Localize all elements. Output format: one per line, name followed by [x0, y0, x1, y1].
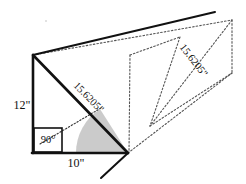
label-right-angle: 90° — [41, 134, 56, 145]
label-horizontal-leg: 10" — [68, 156, 85, 170]
dotted-back-lower-edge — [150, 73, 232, 126]
label-hypotenuse-front: 15.6205" — [71, 80, 106, 115]
dotted-back-face-connector — [150, 37, 180, 126]
label-vertical-leg: 12" — [14, 98, 31, 112]
label-hypotenuse-back: 15.6205" — [178, 42, 210, 79]
dotted-top-ridge — [33, 20, 232, 55]
dotted-long-edge-lower — [128, 73, 232, 153]
geometry-diagram: 12" 10" 90° 15.6205" 15.6205" — [0, 0, 246, 184]
bottom-extension-line — [101, 153, 128, 178]
geometry-canvas: 12" 10" 90° 15.6205" 15.6205" — [0, 0, 246, 184]
scan-speck — [45, 20, 46, 21]
dotted-back-hypotenuse — [150, 20, 232, 126]
dotted-interior-vertical — [129, 55, 130, 152]
dotted-interior-ridge — [130, 37, 180, 55]
